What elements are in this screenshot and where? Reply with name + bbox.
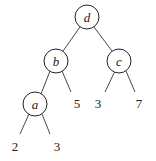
edge-b-5 <box>62 71 71 92</box>
leaf-2: 2 <box>12 139 19 154</box>
leaf-7: 7 <box>136 96 143 111</box>
edge-c-7 <box>126 71 135 92</box>
edge-d-c <box>94 27 112 51</box>
leaf-3-c: 3 <box>95 96 102 111</box>
edge-c-3 <box>105 71 115 92</box>
node-label: c <box>116 54 122 69</box>
leaf-5: 5 <box>74 96 81 111</box>
leaf-3-a: 3 <box>54 139 61 154</box>
node-label: a <box>32 97 39 112</box>
node-b: b <box>44 49 68 73</box>
edge-a-3 <box>42 114 50 134</box>
node-label: d <box>84 10 91 25</box>
edge-b-a <box>41 71 50 94</box>
node-d: d <box>75 5 99 29</box>
edges <box>20 27 135 134</box>
node-c: c <box>107 49 131 73</box>
node-a: a <box>23 92 47 116</box>
node-label: b <box>53 54 60 69</box>
tree-diagram: d b c a 5 3 7 2 3 <box>0 0 156 161</box>
edge-a-2 <box>20 114 29 134</box>
edge-d-b <box>63 27 80 51</box>
